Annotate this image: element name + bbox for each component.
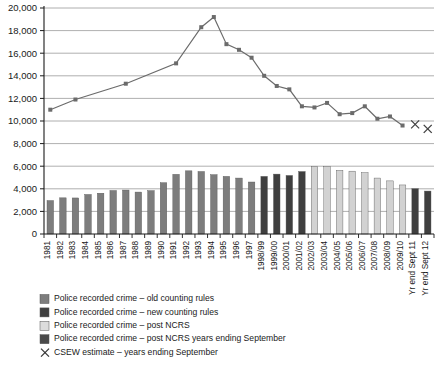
bar: [248, 182, 255, 234]
x-axis-tick-label: Yr end Sept 11: [408, 241, 417, 295]
line-marker: [275, 84, 279, 88]
bar: [236, 178, 243, 234]
bar: [299, 172, 306, 234]
legend-item: Police recorded crime – post NCRS: [40, 320, 190, 330]
line-marker: [73, 98, 77, 102]
bar: [349, 171, 356, 234]
y-axis-tick-label: 6,000: [13, 161, 37, 172]
y-axis-tick-label: 12,000: [8, 93, 37, 104]
line-marker: [250, 56, 254, 60]
bar: [85, 194, 92, 234]
bar: [311, 167, 318, 234]
legend-label: Police recorded crime – post NCRS: [54, 320, 190, 330]
csew-trend-line: [50, 17, 402, 125]
csew-x-marker: [424, 125, 432, 133]
legend-swatch: [40, 335, 49, 344]
crime-statistics-chart: 02,0004,0006,0008,00010,00012,00014,0001…: [0, 0, 441, 365]
x-axis-tick-label: 1990: [157, 241, 166, 260]
x-axis-tick-label: 2009/10: [396, 241, 405, 271]
x-axis-tick-label: 2005/06: [345, 241, 354, 271]
y-axis-tick-label: 18,000: [8, 25, 37, 36]
line-marker: [300, 104, 304, 108]
x-axis-tick-label: 2002/03: [307, 241, 316, 271]
chart-canvas: 02,0004,0006,0008,00010,00012,00014,0001…: [0, 0, 441, 365]
line-marker: [124, 82, 128, 86]
legend-item: CSEW estimate – years ending September: [41, 347, 218, 357]
x-axis-tick-label: 1988: [131, 241, 140, 260]
x-axis-tick-label: 1984: [81, 241, 90, 260]
legend-label: CSEW estimate – years ending September: [54, 347, 218, 357]
bar: [72, 198, 79, 234]
bar: [261, 176, 268, 234]
line-marker: [325, 101, 329, 105]
legend-label: Police recorded crime – new counting rul…: [54, 307, 218, 317]
bar: [387, 181, 394, 234]
x-axis-tick-label: 1994: [207, 241, 216, 260]
legend-label: Police recorded crime – post NCRS years …: [54, 333, 286, 343]
csew-x-marker: [411, 120, 419, 128]
bar: [336, 170, 343, 234]
x-axis-labels: 1981198219831984198519861987198819891990…: [43, 241, 429, 296]
line-marker: [224, 42, 228, 46]
x-axis-tick-label: 2001/02: [295, 241, 304, 271]
x-axis-tick-label: 2000/01: [282, 241, 291, 271]
line-marker: [338, 112, 342, 116]
x-axis-tick-label: 2006/07: [358, 241, 367, 271]
x-axis-tick-label: 1995: [219, 241, 228, 260]
bar: [412, 189, 419, 234]
legend-item: Police recorded crime – post NCRS years …: [40, 333, 286, 343]
bar: [135, 192, 142, 234]
bar: [47, 201, 54, 234]
x-axis-tick-label: Yr end Sept 12: [421, 241, 430, 296]
x-axis-tick-label: 1983: [68, 241, 77, 260]
line-marker: [212, 15, 216, 19]
x-axis-tick-label: 1993: [194, 241, 203, 260]
x-axis-tick-label: 1986: [106, 241, 115, 260]
x-axis-tick-label: 1998/99: [257, 241, 266, 271]
bar: [198, 172, 205, 234]
x-axis-tick-label: 1982: [56, 241, 65, 260]
bar: [97, 193, 104, 234]
legend-swatch: [40, 321, 49, 330]
line-marker: [237, 48, 241, 52]
line-marker: [350, 111, 354, 115]
x-axis-tick-label: 2003/04: [320, 241, 329, 271]
bar: [324, 167, 331, 234]
y-axis-tick-label: 10,000: [8, 115, 37, 126]
line-marker: [174, 61, 178, 65]
line-marker: [375, 117, 379, 121]
bar: [424, 191, 431, 234]
y-axis-tick-label: 4,000: [13, 183, 37, 194]
y-axis-tick-label: 0: [32, 228, 37, 239]
line-marker: [312, 105, 316, 109]
legend-item: Police recorded crime – old counting rul…: [40, 293, 214, 303]
bar: [110, 190, 117, 234]
line-marker: [287, 87, 291, 91]
bar: [362, 173, 369, 234]
x-axis-tick-label: 1996: [232, 241, 241, 260]
x-axis-tick-label: 1992: [182, 241, 191, 260]
x-axis-tick-label: 1987: [119, 241, 128, 260]
bar: [223, 176, 230, 234]
x-axis-tick-label: 1985: [94, 241, 103, 260]
y-axis-tick-label: 2,000: [13, 206, 37, 217]
legend-item: Police recorded crime – new counting rul…: [40, 307, 218, 317]
bar: [399, 185, 406, 234]
bar: [123, 190, 130, 234]
bar: [374, 178, 381, 234]
x-axis-tick-label: 1981: [43, 241, 52, 260]
legend-label: Police recorded crime – old counting rul…: [54, 293, 214, 303]
bar: [160, 183, 167, 234]
x-axis-tick-label: 1997: [245, 241, 254, 260]
x-axis-tick-label: 2007/08: [370, 241, 379, 271]
x-axis-tick-label: 1999/00: [270, 241, 279, 271]
line-series-group: [48, 15, 431, 133]
bar: [185, 171, 192, 234]
y-axis-tick-label: 14,000: [8, 70, 37, 81]
bar: [211, 175, 218, 234]
y-axis-tick-label: 8,000: [13, 138, 37, 149]
line-marker: [199, 25, 203, 29]
x-axis-tick-label: 2008/09: [383, 241, 392, 271]
bar: [60, 198, 67, 234]
legend-swatch: [40, 308, 49, 317]
